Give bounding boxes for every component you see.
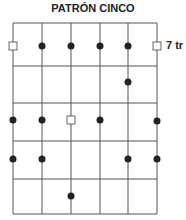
dot-marker [125, 79, 132, 86]
row-count-label: 7 tr [166, 39, 183, 51]
dot-marker [10, 117, 17, 124]
dot-marker [39, 117, 46, 124]
dot-marker [10, 156, 17, 163]
dot-marker [154, 156, 161, 163]
dot-marker [125, 43, 132, 50]
pattern-grid [0, 0, 186, 220]
dot-marker [97, 43, 104, 50]
dot-marker [97, 117, 104, 124]
square-marker [153, 42, 161, 50]
dot-marker [125, 156, 132, 163]
dot-marker [39, 156, 46, 163]
dot-marker [154, 118, 161, 125]
square-marker [9, 42, 17, 50]
dot-marker [39, 43, 46, 50]
square-marker [67, 116, 75, 124]
dot-marker [68, 43, 75, 50]
dot-marker [68, 193, 75, 200]
